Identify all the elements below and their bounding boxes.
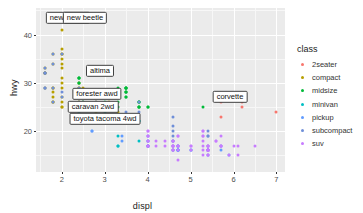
legend-item[interactable]: subcompact (296, 124, 362, 137)
grid-minor-vertical (40, 8, 41, 172)
annotation-label: altima (86, 65, 114, 77)
data-point (189, 144, 192, 147)
data-point (146, 130, 149, 133)
data-point (236, 154, 239, 157)
grid-minor-horizontal (36, 59, 285, 60)
data-point (52, 96, 55, 99)
data-point (52, 101, 55, 104)
data-point (60, 91, 63, 94)
legend-item[interactable]: 2seater (296, 58, 362, 71)
data-point (146, 105, 149, 108)
legend-key-icon (296, 124, 309, 137)
legend-dot-icon (301, 116, 304, 119)
data-point (206, 149, 209, 152)
data-point (146, 134, 149, 137)
legend-item[interactable]: minivan (296, 98, 362, 111)
x-tick-label: 3 (95, 175, 115, 184)
x-tick-label: 4 (138, 175, 158, 184)
data-point (60, 28, 63, 31)
data-point (172, 134, 175, 137)
data-point (146, 144, 149, 147)
data-point (60, 101, 63, 104)
data-point (189, 149, 192, 152)
annotation-label: new beetle (63, 12, 107, 24)
grid-major-horizontal (36, 83, 285, 84)
data-point (43, 72, 46, 75)
data-point (138, 139, 141, 142)
grid-major-vertical (276, 8, 277, 172)
data-point (52, 86, 55, 89)
x-tick-mark (276, 172, 277, 174)
data-point (206, 154, 209, 157)
data-point (60, 52, 63, 55)
x-tick-mark (148, 172, 149, 174)
data-point (172, 139, 175, 142)
data-point (60, 76, 63, 79)
y-tick-label: 20 (10, 127, 32, 136)
data-point (60, 57, 63, 60)
legend-items: 2seatercompactmidsizeminivanpickupsubcom… (296, 58, 362, 150)
legend-label: 2seater (312, 60, 337, 69)
legend-dot-icon (301, 76, 304, 79)
data-point (275, 110, 278, 113)
annotation-label: toyota tacoma 4wd (70, 113, 141, 125)
legend-label: compact (312, 73, 340, 82)
legend-dot-icon (301, 63, 304, 66)
data-point (116, 134, 119, 137)
data-point (202, 139, 205, 142)
y-tick-mark (34, 131, 36, 132)
data-point (60, 105, 63, 108)
data-point (116, 144, 119, 147)
x-tick-mark (234, 172, 235, 174)
grid-major-vertical (148, 8, 149, 172)
data-point (232, 144, 235, 147)
legend-item[interactable]: compact (296, 71, 362, 84)
data-point (172, 115, 175, 118)
legend-item[interactable]: suv (296, 137, 362, 150)
legend: class 2seatercompactmidsizeminivanpickup… (296, 44, 362, 150)
legend-key-icon (296, 84, 309, 97)
data-point (215, 139, 218, 142)
legend-label: minivan (312, 100, 338, 109)
data-point (176, 144, 179, 147)
data-point (52, 62, 55, 65)
legend-item[interactable]: midsize (296, 84, 362, 97)
data-point (219, 115, 222, 118)
data-point (202, 144, 205, 147)
data-point (206, 130, 209, 133)
data-point (219, 144, 222, 147)
grid-minor-horizontal (36, 155, 285, 156)
data-point (43, 86, 46, 89)
x-tick-label: 6 (224, 175, 244, 184)
data-point (120, 139, 123, 142)
legend-dot-icon (301, 142, 304, 145)
data-point (219, 134, 222, 137)
annotation-label: caravan 2wd (68, 101, 119, 113)
data-point (146, 139, 149, 142)
data-point (60, 81, 63, 84)
legend-dot-icon (301, 89, 304, 92)
data-point (60, 62, 63, 65)
data-point (202, 105, 205, 108)
legend-label: suv (312, 139, 324, 148)
data-point (172, 125, 175, 128)
legend-key-icon (296, 137, 309, 150)
data-point (60, 86, 63, 89)
data-point (172, 144, 175, 147)
legend-dot-icon (301, 129, 304, 132)
data-point (77, 81, 80, 84)
data-point (60, 48, 63, 51)
x-axis-title: displ (0, 201, 285, 211)
data-point (125, 91, 128, 94)
grid-minor-vertical (169, 8, 170, 172)
y-tick-mark (34, 35, 36, 36)
data-point (125, 86, 128, 89)
data-point (202, 130, 205, 133)
legend-key-icon (296, 71, 309, 84)
data-point (52, 91, 55, 94)
x-tick-label: 2 (52, 175, 72, 184)
legend-item[interactable]: pickup (296, 111, 362, 124)
data-point (202, 149, 205, 152)
legend-dot-icon (301, 103, 304, 106)
x-tick-label: 5 (181, 175, 201, 184)
